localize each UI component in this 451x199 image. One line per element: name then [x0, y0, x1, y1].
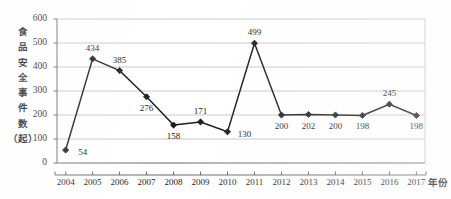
- x-axis-tick-label: 2012: [266, 177, 296, 187]
- data-point-value-label: 434: [81, 43, 105, 53]
- data-point-value-label: 171: [189, 106, 213, 116]
- x-axis-tick-label: 2009: [186, 177, 216, 187]
- data-point-marker: [305, 111, 311, 117]
- x-axis-tick-label: 2004: [51, 177, 81, 187]
- data-point-marker: [413, 112, 419, 118]
- data-point-marker: [386, 101, 392, 107]
- x-axis-tick-label: 2010: [213, 177, 243, 187]
- x-axis-tick-label: 2015: [347, 177, 377, 187]
- data-point-value-label: 198: [404, 121, 428, 131]
- plot-area: [0, 0, 451, 199]
- data-point-value-label: 276: [135, 103, 159, 113]
- y-axis-tick-label: 0: [21, 157, 47, 167]
- data-point-value-label: 54: [71, 147, 95, 157]
- data-point-value-label: 198: [350, 121, 374, 131]
- data-point-value-label: 200: [323, 121, 347, 131]
- data-point-marker: [224, 129, 230, 135]
- data-point-marker: [251, 40, 257, 46]
- x-axis-tick-label: 2007: [132, 177, 162, 187]
- x-axis-tick-label: 2016: [374, 177, 404, 187]
- data-point-marker: [63, 147, 69, 153]
- food-safety-incidents-line-chart: 食 品 安 全 事 件 数 （起） 年份 0100200300400500600…: [0, 0, 451, 199]
- y-axis-tick-label: 400: [21, 61, 47, 71]
- y-axis-tick-label: 200: [21, 109, 47, 119]
- x-axis-tick-label: 2011: [239, 177, 269, 187]
- x-axis-tick-label: 2005: [78, 177, 108, 187]
- data-point-marker: [90, 56, 96, 62]
- x-axis-tick-label: 2008: [159, 177, 189, 187]
- x-axis-tick-label: 2014: [320, 177, 350, 187]
- y-axis-tick-label: 500: [21, 37, 47, 47]
- data-point-marker: [359, 112, 365, 118]
- x-axis-tick-label: 2006: [105, 177, 135, 187]
- data-point-marker: [332, 112, 338, 118]
- data-point-value-label: 245: [377, 88, 401, 98]
- data-point-value-label: 385: [108, 55, 132, 65]
- y-axis-tick-label: 300: [21, 85, 47, 95]
- y-axis-tick-label: 100: [21, 133, 47, 143]
- data-point-marker: [197, 119, 203, 125]
- data-point-value-label: 130: [233, 129, 257, 139]
- data-point-value-label: 158: [162, 131, 186, 141]
- x-axis-tick-label: 2013: [293, 177, 323, 187]
- x-axis-tick-label: 2017: [401, 177, 431, 187]
- data-point-value-label: 202: [296, 121, 320, 131]
- data-point-value-label: 200: [269, 121, 293, 131]
- y-axis-tick-label: 600: [21, 13, 47, 23]
- data-point-value-label: 499: [242, 27, 266, 37]
- data-point-marker: [278, 112, 284, 118]
